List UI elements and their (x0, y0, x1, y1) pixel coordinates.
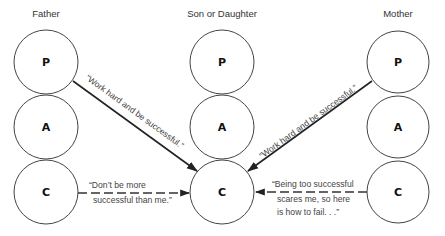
mother-child-label: C (394, 186, 402, 199)
mother-parent-label: P (394, 56, 402, 69)
father-child-label: C (42, 186, 50, 199)
mother-ego-states: P A C (367, 31, 429, 223)
mother-child-message-line-2: scares me, so here (277, 194, 350, 204)
child-child-label: C (218, 186, 226, 199)
mother-column-label: Mother (383, 8, 413, 19)
mother-child-message-line-1: “Being too successful (272, 179, 354, 189)
mother-adult-label: A (394, 121, 403, 134)
script-diagram: Father Son or Daughter Mother P A C P A … (0, 0, 445, 236)
father-parent-message: “Work hard and be successful.” (84, 73, 186, 151)
father-ego-states: P A C (14, 30, 78, 224)
father-child-message-line-1: “Don’t be more (89, 180, 146, 190)
father-column-label: Father (32, 8, 59, 19)
child-adult-label: A (218, 121, 227, 134)
father-adult-label: A (42, 121, 51, 134)
father-child-message-line-2: successful than me.” (93, 195, 172, 205)
mother-child-message-line-3: is how to fail. . .” (277, 207, 339, 217)
father-parent-to-child-arrow (73, 81, 197, 171)
mother-parent-message: “Work hard and be successful.” (257, 83, 359, 161)
child-column-label: Son or Daughter (187, 8, 257, 19)
child-ego-states: P A C (190, 30, 254, 224)
child-parent-label: P (218, 56, 226, 69)
father-parent-label: P (42, 56, 50, 69)
